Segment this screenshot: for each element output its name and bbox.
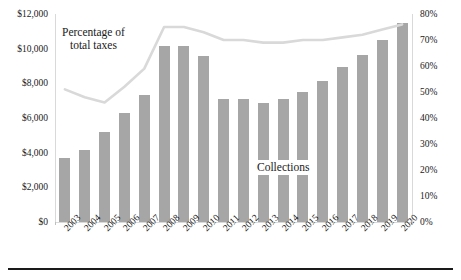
annotation-collections: Collections [253, 160, 313, 175]
right-axis-line [412, 14, 413, 222]
bar-2004 [79, 150, 90, 222]
x-tickmark-2004 [75, 222, 76, 225]
left-axis-tick-1: $2,000 [22, 182, 48, 192]
x-tickmark-2017 [333, 222, 334, 225]
bottom-divider [8, 268, 453, 270]
x-tickmark-2008 [154, 222, 155, 225]
annotation-line-1: Percentage of [62, 26, 125, 39]
left-axis-tick-5: $10,000 [17, 44, 48, 54]
bar-2010 [198, 56, 209, 222]
bar-2008 [159, 46, 170, 222]
chart-container: $0$2,000$4,000$6,000$8,000$10,000$12,000… [0, 0, 461, 280]
bar-2007 [139, 95, 150, 222]
bar-2012 [238, 99, 249, 222]
bar-2016 [317, 81, 328, 222]
left-axis-tick-4: $8,000 [22, 78, 48, 88]
right-axis-tick-5: 50% [420, 87, 437, 97]
x-tickmark-2014 [273, 222, 274, 225]
x-tickmark-2012 [234, 222, 235, 225]
bar-2019 [377, 40, 388, 222]
x-tickmark-2003 [55, 222, 56, 225]
left-axis-tick-6: $12,000 [17, 9, 48, 19]
category-axis-labels: 2003200420052006200720082009201020112012… [55, 226, 412, 266]
left-axis-tick-0: $0 [39, 217, 49, 227]
x-tickmark-2015 [293, 222, 294, 225]
x-tickmark-2005 [95, 222, 96, 225]
left-axis-tick-3: $6,000 [22, 113, 48, 123]
right-axis-tick-1: 10% [420, 191, 437, 201]
x-tickmark-end [412, 222, 413, 225]
x-tickmark-2010 [194, 222, 195, 225]
right-axis-tick-7: 70% [420, 35, 437, 45]
annotation-line-2: total taxes [62, 39, 125, 52]
right-percent-axis: 0%10%20%30%40%50%60%70%80% [416, 0, 460, 222]
x-tickmark-2019 [372, 222, 373, 225]
bar-2005 [99, 132, 110, 222]
bar-2017 [337, 67, 348, 222]
x-tickmark-2006 [115, 222, 116, 225]
x-tickmark-2013 [253, 222, 254, 225]
right-axis-tick-6: 60% [420, 61, 437, 71]
bar-2011 [218, 99, 229, 222]
right-axis-tick-3: 30% [420, 139, 437, 149]
x-tickmark-2011 [214, 222, 215, 225]
left-value-axis: $0$2,000$4,000$6,000$8,000$10,000$12,000 [0, 0, 52, 222]
bar-2015 [297, 92, 308, 222]
bar-2003 [59, 158, 70, 222]
bar-2020 [397, 23, 408, 222]
x-tickmark-2009 [174, 222, 175, 225]
x-tickmark-2007 [134, 222, 135, 225]
annotation-percentage-of-total-taxes: Percentage of total taxes [62, 26, 125, 52]
x-tickmark-2018 [353, 222, 354, 225]
x-tickmark-2016 [313, 222, 314, 225]
right-axis-tick-4: 40% [420, 113, 437, 123]
bar-2009 [178, 46, 189, 222]
right-axis-tick-0: 0% [420, 217, 433, 227]
left-axis-tick-2: $4,000 [22, 148, 48, 158]
bar-2006 [119, 113, 130, 222]
x-tickmark-2020 [392, 222, 393, 225]
bar-2018 [357, 55, 368, 222]
right-axis-tick-2: 20% [420, 165, 437, 175]
right-axis-tick-8: 80% [420, 9, 437, 19]
